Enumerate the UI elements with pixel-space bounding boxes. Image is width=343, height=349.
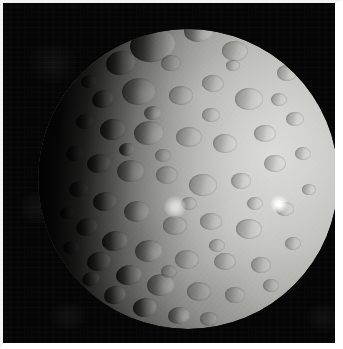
crater xyxy=(100,309,119,325)
ceres-disk-container xyxy=(3,3,335,343)
limb-darkening-layer xyxy=(38,29,335,329)
ceres-image-viewport xyxy=(0,0,343,349)
ceres-disk xyxy=(38,29,335,329)
crater xyxy=(251,29,271,41)
space-photograph xyxy=(3,3,335,343)
